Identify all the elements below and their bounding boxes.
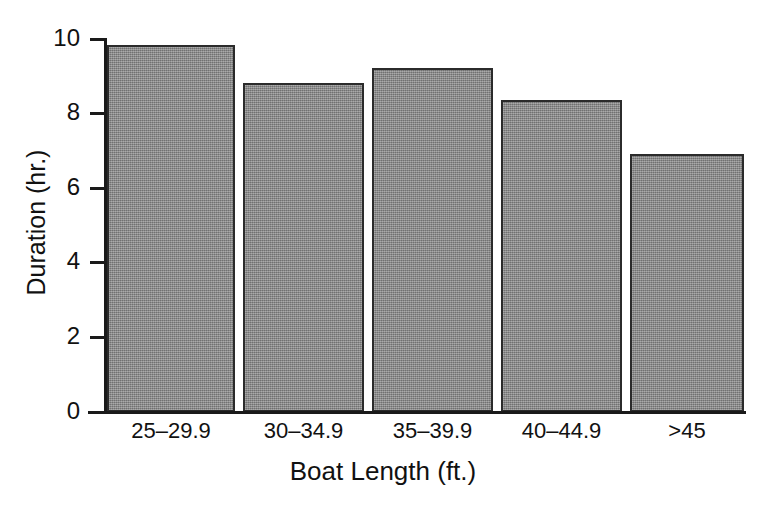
x-axis-line xyxy=(88,411,746,414)
y-tick-label-0: 0 xyxy=(36,399,80,423)
y-tick-label-4: 4 xyxy=(36,249,80,273)
y-tick-10 xyxy=(90,38,106,41)
x-tick-label-2: 35–39.9 xyxy=(372,420,493,442)
y-tick-label-10: 10 xyxy=(36,26,80,50)
bar-1[interactable] xyxy=(243,83,364,412)
y-tick-2 xyxy=(90,336,106,339)
y-axis-title: Duration (hr.) xyxy=(22,103,51,343)
bar-chart-figure: Duration (hr.) 10 8 6 4 2 0 25–29.9 30–3… xyxy=(0,0,766,509)
plot-area xyxy=(107,38,744,412)
y-tick-4 xyxy=(90,261,106,264)
y-tick-6 xyxy=(90,187,106,190)
y-tick-label-8: 8 xyxy=(36,100,80,124)
bar-2[interactable] xyxy=(372,68,493,412)
bar-0[interactable] xyxy=(107,45,235,412)
y-tick-label-2: 2 xyxy=(36,324,80,348)
x-tick-label-4: >45 xyxy=(630,420,744,442)
y-tick-8 xyxy=(90,112,106,115)
bar-4[interactable] xyxy=(630,154,744,412)
bar-3[interactable] xyxy=(501,100,622,412)
x-tick-label-1: 30–34.9 xyxy=(243,420,364,442)
x-tick-label-3: 40–44.9 xyxy=(501,420,622,442)
y-tick-label-6: 6 xyxy=(36,175,80,199)
x-tick-label-0: 25–29.9 xyxy=(107,420,235,442)
x-axis-title: Boat Length (ft.) xyxy=(0,456,766,487)
